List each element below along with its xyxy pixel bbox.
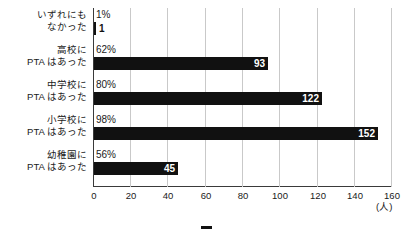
y-axis-label-1: 高校に PTA はあった <box>0 44 87 68</box>
x-tick-20: 20 <box>126 189 137 202</box>
bar-wrapper-1: 93 <box>94 57 268 70</box>
bar-4: 45 <box>94 162 178 175</box>
x-tick-120: 120 <box>310 189 326 202</box>
bar-0: 1 <box>94 22 96 35</box>
plot-area: 1% 1 62% 93 80% 122 98% <box>93 8 392 187</box>
bar-percent-label-4: 56% <box>96 149 116 161</box>
y-axis-label-3: 小学校に PTA はあった <box>0 114 87 138</box>
bar-percent-label-3: 98% <box>96 114 116 126</box>
x-tick-140: 140 <box>347 189 363 202</box>
bar-row-1: 62% 93 <box>93 44 392 79</box>
bar-percent-label-1: 62% <box>96 44 116 56</box>
y-axis-label-2: 中学校に PTA はあった <box>0 79 87 103</box>
x-axis-unit-label: (人) <box>376 201 392 213</box>
x-axis-tick-labels: 0 20 40 60 80 100 120 140 160 <box>93 189 392 203</box>
bar-row-3: 98% 152 <box>93 114 392 149</box>
y-axis-label-4-line1: 幼稚園に <box>0 149 87 161</box>
bar-value-label-1: 93 <box>254 57 265 70</box>
bar-value-label-2: 122 <box>302 92 319 105</box>
x-tick-60: 60 <box>201 189 212 202</box>
bar-wrapper-2: 122 <box>94 92 322 105</box>
bar-value-label-0: 1 <box>99 22 105 35</box>
bar-1: 93 <box>94 57 268 70</box>
y-axis-label-4: 幼稚園に PTA はあった <box>0 149 87 173</box>
x-tick-40: 40 <box>163 189 174 202</box>
y-axis-labels: いずれにも なかった 高校に PTA はあった 中学校に PTA はあった 小学… <box>0 8 90 187</box>
x-tick-0: 0 <box>91 189 96 202</box>
bar-value-label-4: 45 <box>164 162 175 175</box>
bar-wrapper-4: 45 <box>94 162 178 175</box>
y-axis-label-1-line2: PTA はあった <box>0 56 87 68</box>
y-axis-label-3-line2: PTA はあった <box>0 126 87 138</box>
y-axis-label-0: いずれにも なかった <box>0 9 87 33</box>
bar-wrapper-0: 1 <box>94 22 96 35</box>
bar-3: 152 <box>94 127 378 140</box>
y-axis-label-0-line2: なかった <box>0 21 87 33</box>
bar-wrapper-3: 152 <box>94 127 378 140</box>
y-axis-label-1-line1: 高校に <box>0 44 87 56</box>
y-axis-label-3-line1: 小学校に <box>0 114 87 126</box>
x-tick-80: 80 <box>238 189 249 202</box>
y-axis-label-2-line2: PTA はあった <box>0 91 87 103</box>
caption-marker-icon <box>201 226 212 229</box>
bar-value-label-3: 152 <box>358 127 375 140</box>
bar-row-0: 1% 1 <box>93 9 392 44</box>
bar-row-2: 80% 122 <box>93 79 392 114</box>
x-tick-100: 100 <box>272 189 288 202</box>
bar-2: 122 <box>94 92 322 105</box>
y-axis-label-2-line1: 中学校に <box>0 79 87 91</box>
figure-caption <box>0 222 416 229</box>
y-axis-label-0-line1: いずれにも <box>0 9 87 21</box>
bar-percent-label-0: 1% <box>96 9 110 21</box>
y-axis-label-4-line2: PTA はあった <box>0 161 87 173</box>
chart-figure: いずれにも なかった 高校に PTA はあった 中学校に PTA はあった 小学… <box>0 0 416 229</box>
bar-row-4: 56% 45 <box>93 149 392 184</box>
bar-percent-label-2: 80% <box>96 79 116 91</box>
